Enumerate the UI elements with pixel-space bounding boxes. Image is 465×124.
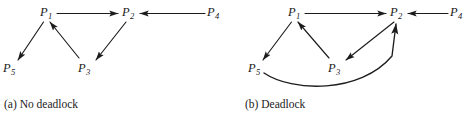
edge-p1-to-p5 — [18, 22, 44, 60]
node-p1-base: P — [288, 5, 296, 19]
node-p4-base: P — [450, 5, 458, 19]
node-p2-subscript: 2 — [130, 11, 134, 21]
node-label-p1: P1 — [288, 6, 300, 19]
node-p4-subscript: 4 — [458, 11, 462, 21]
panel-b-caption: (b) Deadlock — [245, 99, 305, 111]
node-label-p3: P3 — [328, 62, 340, 75]
node-label-p2: P2 — [390, 6, 402, 19]
edge-p5-to-p2-curved — [264, 24, 396, 86]
edge-p3-to-p1 — [50, 22, 79, 58]
node-p3-base: P — [78, 61, 86, 75]
node-p4-subscript: 4 — [215, 11, 219, 21]
node-label-p1: P1 — [40, 6, 52, 19]
node-p1-base: P — [40, 5, 48, 19]
node-p1-subscript: 1 — [48, 11, 52, 21]
node-label-p5: P5 — [248, 62, 260, 75]
node-p5-subscript: 5 — [256, 67, 260, 77]
node-label-p4: P4 — [450, 6, 462, 19]
node-p4-base: P — [207, 5, 215, 19]
edge-p1-to-p5 — [263, 22, 292, 60]
node-p3-base: P — [328, 61, 336, 75]
edge-p2-to-p3 — [96, 22, 126, 60]
panel-a-caption: (a) No deadlock — [4, 99, 78, 111]
edge-p2-to-p3 — [346, 22, 394, 60]
node-p5-base: P — [3, 61, 11, 75]
node-p5-base: P — [248, 61, 256, 75]
node-label-p5: P5 — [3, 62, 15, 75]
node-p1-subscript: 1 — [296, 11, 300, 21]
graph-b-edges — [232, 0, 465, 96]
node-p3-subscript: 3 — [86, 67, 90, 77]
node-label-p3: P3 — [78, 62, 90, 75]
node-p3-subscript: 3 — [336, 67, 340, 77]
edge-p3-to-p1 — [298, 22, 329, 58]
node-p5-subscript: 5 — [11, 67, 15, 77]
node-label-p4: P4 — [207, 6, 219, 19]
graph-a-edges — [0, 0, 232, 96]
node-p2-base: P — [122, 5, 130, 19]
panel-deadlock: P1 P2 P3 P4 P5 (b) Deadlock — [232, 0, 465, 124]
node-label-p2: P2 — [122, 6, 134, 19]
node-p2-subscript: 2 — [398, 11, 402, 21]
deadlock-resource-allocation-figure: P1 P2 P3 P4 P5 (a) No deadlock — [0, 0, 465, 124]
panel-no-deadlock: P1 P2 P3 P4 P5 (a) No deadlock — [0, 0, 232, 124]
node-p2-base: P — [390, 5, 398, 19]
